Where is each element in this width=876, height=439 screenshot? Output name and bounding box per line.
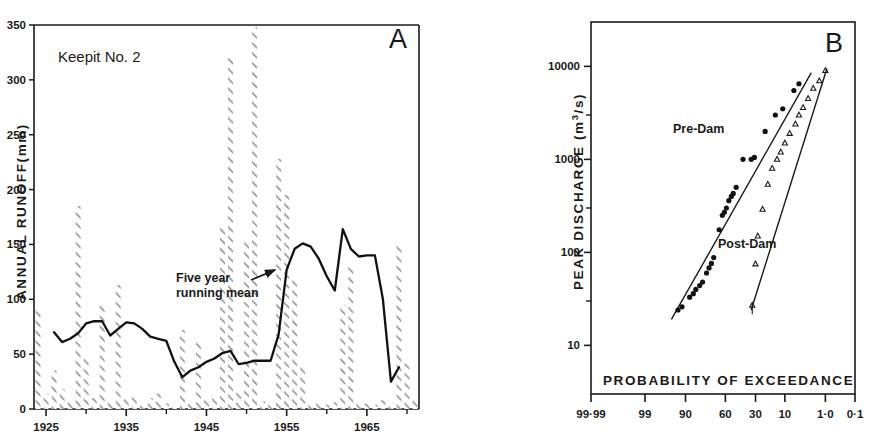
data-point-pre-dam (724, 205, 729, 210)
x-tick-label: 1935 (113, 421, 139, 433)
annotation-line-1: Five year (176, 271, 230, 285)
data-point-pre-dam (796, 81, 801, 86)
x-tick-label: 99·99 (576, 408, 605, 420)
bar (52, 371, 57, 409)
data-point-pre-dam (693, 287, 698, 292)
data-point-pre-dam (752, 155, 757, 160)
bar (404, 363, 409, 409)
bar (68, 400, 73, 409)
data-point-post-dam (787, 131, 792, 136)
x-tick-label: 60 (719, 408, 732, 420)
bar (204, 400, 209, 409)
bar (300, 365, 305, 409)
bar (236, 393, 241, 409)
panel-b-y-axis-title: PEAK DISCHARGE (m3/s) (569, 93, 586, 290)
bar (60, 389, 65, 409)
data-point-pre-dam (706, 265, 711, 270)
bar (108, 400, 113, 409)
x-tick-label: 1965 (354, 421, 380, 433)
bar (364, 404, 369, 409)
bar (212, 398, 217, 409)
bar (372, 405, 377, 409)
bar (413, 398, 418, 409)
bar (332, 402, 337, 409)
running-mean-annotation: Five year running mean (176, 270, 275, 300)
panel-b-canvas: 10000100010010 99·9999906030101·00·1 PEA… (440, 0, 876, 439)
bar (84, 356, 89, 409)
y-tick-label: 350 (7, 19, 26, 31)
five-year-running-mean-line (54, 229, 399, 382)
bar (92, 398, 97, 409)
bar (244, 242, 249, 409)
x-tick-label: 1925 (33, 421, 59, 433)
data-point-post-dam (811, 86, 816, 91)
x-tick-label: 99 (639, 408, 652, 420)
bar (132, 396, 137, 409)
data-point-pre-dam (791, 88, 796, 93)
y-tick-label: 10 (567, 339, 580, 351)
panel-b: 10000100010010 99·9999906030101·00·1 PEA… (440, 0, 876, 439)
y-tick-label: 10000 (548, 60, 580, 72)
pre-dam-label: Pre-Dam (673, 122, 724, 136)
bar (220, 228, 225, 409)
data-point-pre-dam (675, 307, 680, 312)
bar (76, 206, 81, 409)
data-point-pre-dam (679, 304, 684, 309)
data-point-post-dam (800, 105, 805, 110)
bar (156, 394, 161, 409)
bar (164, 404, 169, 409)
bar (388, 402, 393, 409)
bar (140, 402, 145, 409)
x-tick-label: 0·1 (847, 408, 864, 420)
panel-a-canvas: 050100150200250300350 192519351945195519… (0, 0, 440, 439)
data-point-pre-dam (734, 185, 739, 190)
x-tick-label: 30 (749, 408, 762, 420)
bar (284, 195, 289, 409)
bar (124, 398, 129, 409)
x-tick-label: 90 (679, 408, 692, 420)
data-point-post-dam (778, 149, 783, 154)
panel-a: 050100150200250300350 192519351945195519… (0, 0, 440, 439)
data-point-post-dam (765, 181, 770, 186)
y-tick-label: 0 (20, 403, 26, 415)
bar (148, 398, 153, 409)
y-title-prefix: PEAK DISCHARGE (m (571, 120, 586, 290)
fit-line (671, 73, 811, 320)
data-point-pre-dam (711, 255, 716, 260)
bar (44, 394, 49, 409)
data-point-post-dam (796, 112, 801, 117)
bar (116, 285, 121, 409)
svg-text:PEAK DISCHARGE (m3/s): PEAK DISCHARGE (m3/s) (569, 93, 586, 290)
data-point-post-dam (774, 157, 779, 162)
data-point-post-dam (806, 96, 811, 101)
fit-line (751, 68, 827, 310)
panel-a-y-axis-title: ANNUAL RUNOFF(mm) (14, 123, 29, 300)
data-point-post-dam (793, 121, 798, 126)
bar (252, 27, 257, 409)
panel-a-x-axis-ticks: 19251935194519551965 (33, 409, 407, 433)
data-point-pre-dam (709, 261, 714, 266)
x-tick-label: 1945 (194, 421, 220, 433)
annotation-line-2: running mean (176, 286, 259, 300)
bar (196, 341, 201, 409)
bar (276, 159, 281, 409)
y-tick-label: 50 (13, 348, 26, 360)
bar (36, 308, 41, 409)
data-point-pre-dam (773, 112, 778, 117)
x-tick-label: 1955 (274, 421, 300, 433)
y-title-superscript: 3 (569, 113, 580, 120)
data-point-pre-dam (780, 106, 785, 111)
bar (268, 402, 273, 409)
bar (228, 58, 233, 409)
data-point-post-dam (770, 166, 775, 171)
panel-b-frame (591, 22, 855, 394)
bar (324, 405, 329, 409)
data-point-pre-dam (704, 270, 709, 275)
x-tick-label: 1·0 (817, 408, 834, 420)
bar (396, 244, 401, 409)
figure-root: 050100150200250300350 192519351945195519… (0, 0, 876, 439)
data-point-post-dam (760, 207, 765, 212)
data-point-pre-dam (731, 191, 736, 196)
bar (308, 404, 313, 409)
x-tick-label: 10 (778, 408, 791, 420)
